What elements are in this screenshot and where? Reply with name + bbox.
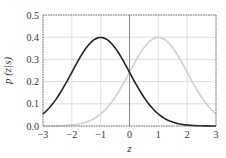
chart: −3−2−10123 0.00.10.20.30.40.5 z p (z|s) [0,0,226,158]
x-tick-label: 3 [214,129,219,140]
y-tick-label: 0.2 [27,76,40,87]
y-tick-label: 0.3 [27,54,40,65]
y-tick-label: 0.0 [27,121,40,132]
x-tick-label: −2 [67,129,78,140]
x-tick-label: −3 [38,129,49,140]
y-tick-label: 0.5 [27,10,40,21]
x-tick-label: 1 [156,129,161,140]
y-tick-label: 0.1 [27,98,40,109]
y-axis-label: p (z|s) [1,57,14,85]
x-tick-label: 2 [185,129,190,140]
x-tick-label: −1 [95,129,106,140]
y-tick-label: 0.4 [27,32,40,43]
x-tick-label: 0 [127,129,132,140]
x-tick-labels: −3−2−10123 [38,129,219,140]
x-axis-label: z [126,142,132,154]
y-tick-labels: 0.00.10.20.30.40.5 [27,10,40,132]
